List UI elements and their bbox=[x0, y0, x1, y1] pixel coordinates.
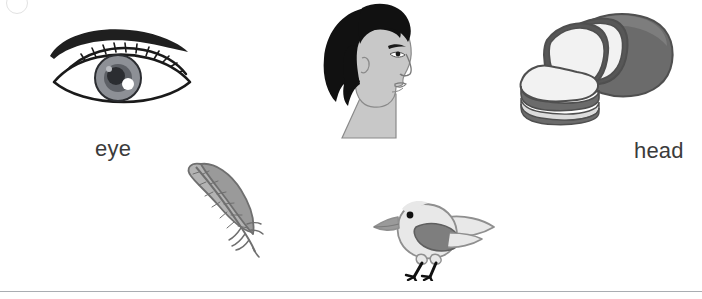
page-divider bbox=[0, 291, 702, 292]
bread-loaf-illustration bbox=[515, 8, 685, 128]
picture-label-eye: eye bbox=[95, 136, 131, 162]
bird-illustration bbox=[372, 193, 502, 281]
worksheet-page: eye head bbox=[0, 0, 702, 299]
eye-illustration bbox=[40, 26, 200, 106]
page-marker-circle-icon bbox=[6, 0, 28, 14]
head-profile-illustration bbox=[300, 2, 440, 142]
feather-illustration bbox=[175, 160, 285, 260]
picture-label-head: head bbox=[634, 138, 684, 164]
